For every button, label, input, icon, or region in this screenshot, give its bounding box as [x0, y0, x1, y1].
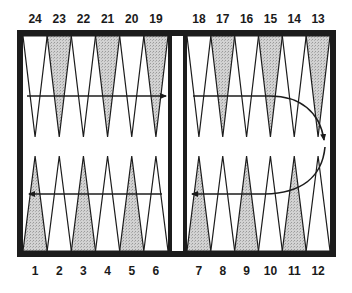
point-5: [120, 156, 144, 251]
point-number-label: 11: [288, 264, 301, 278]
point-number-label: 20: [125, 12, 139, 26]
point-number-label: 18: [192, 12, 206, 26]
point-number-label: 5: [128, 264, 135, 278]
point-number-label: 21: [101, 12, 115, 26]
board-frame-right: [330, 30, 336, 257]
point-number-label: 9: [243, 264, 250, 278]
bar-left-edge: [168, 30, 172, 257]
top-point-labels: 242322212019181716151413: [28, 12, 325, 26]
point-15: [259, 36, 283, 137]
point-18: [187, 36, 211, 137]
point-number-label: 24: [28, 12, 42, 26]
point-7: [187, 156, 211, 251]
point-4: [96, 156, 120, 251]
point-number-label: 23: [53, 12, 67, 26]
point-23: [47, 36, 71, 137]
movement-arrows: [27, 96, 325, 194]
board-frame-left: [17, 30, 23, 257]
point-16: [235, 36, 259, 137]
point-1: [23, 156, 47, 251]
arrow-top-right-curve: [193, 96, 324, 140]
point-number-label: 4: [104, 264, 111, 278]
point-number-label: 22: [77, 12, 91, 26]
point-22: [71, 36, 95, 137]
point-number-label: 17: [216, 12, 230, 26]
point-number-label: 7: [196, 264, 203, 278]
point-2: [47, 156, 71, 251]
bottom-point-labels: 123456789101112: [32, 264, 325, 278]
point-number-label: 13: [311, 12, 325, 26]
top-points: [23, 36, 330, 137]
point-20: [120, 36, 144, 137]
point-19: [144, 36, 168, 137]
point-number-label: 15: [264, 12, 278, 26]
point-number-label: 3: [80, 264, 87, 278]
point-21: [96, 36, 120, 137]
point-11: [282, 156, 306, 251]
point-3: [71, 156, 95, 251]
point-number-label: 2: [56, 264, 63, 278]
backgammon-board: 242322212019181716151413 123456789101112: [0, 0, 352, 293]
point-8: [211, 156, 235, 251]
point-number-label: 10: [264, 264, 278, 278]
point-number-label: 14: [288, 12, 302, 26]
point-number-label: 16: [240, 12, 254, 26]
bottom-points: [23, 156, 330, 251]
arrow-bottom-right-curve: [192, 147, 325, 194]
point-6: [144, 156, 168, 251]
point-number-label: 1: [32, 264, 39, 278]
point-number-label: 12: [311, 264, 325, 278]
point-17: [211, 36, 235, 137]
bar-right-edge: [183, 30, 187, 257]
point-number-label: 8: [219, 264, 226, 278]
board-frame-top: [17, 30, 336, 36]
point-24: [23, 36, 47, 137]
point-number-label: 19: [149, 12, 163, 26]
point-number-label: 6: [153, 264, 160, 278]
board-frame-bottom: [17, 251, 336, 257]
point-9: [235, 156, 259, 251]
point-14: [282, 36, 306, 137]
point-10: [259, 156, 283, 251]
